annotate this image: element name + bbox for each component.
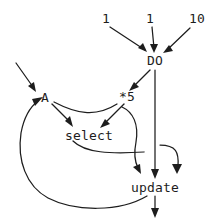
edge-mul5-to-update: [122, 107, 141, 174]
edge-hook-to-update: [160, 145, 182, 174]
node-literal-1-b: 1: [146, 12, 154, 25]
node-a: A: [41, 91, 49, 104]
edge-external-input-to-a: [16, 63, 36, 92]
edge-a-to-select: [52, 104, 73, 127]
node-do: DO: [147, 54, 163, 67]
node-literal-1-a: 1: [102, 12, 110, 25]
edge-mul5-to-select: [100, 104, 124, 128]
edge-update-to-external-output: [151, 196, 159, 218]
edge-do-to-update: [151, 70, 159, 179]
node-mul5: *5: [119, 90, 135, 103]
edge-literal10-to-do: [163, 28, 190, 53]
node-literal-10: 10: [189, 12, 205, 25]
edge-a-to-mul5: [54, 102, 117, 113]
edge-literal1b-to-do: [150, 27, 158, 53]
graph-edges-canvas: [0, 0, 219, 223]
dataflow-diagram: 1 1 10 DO *5 A select update: [0, 0, 219, 223]
edge-select-to-update: [73, 141, 144, 153]
node-update: update: [131, 181, 179, 194]
edge-literal1a-to-do: [110, 27, 147, 52]
node-select: select: [65, 129, 113, 142]
